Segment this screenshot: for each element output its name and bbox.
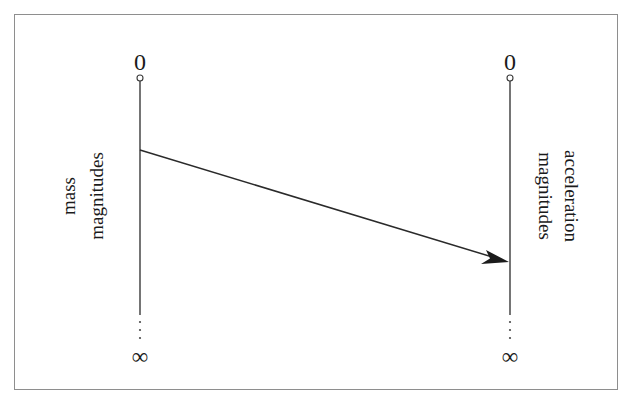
- left-axis-title-line1: mass: [59, 177, 78, 215]
- left-axis-title-line2: magnitudes: [87, 152, 106, 240]
- left-axis-dots: [139, 321, 141, 339]
- figure-canvas: 0 ∞ mass magnitudes 0 ∞ acceleration mag…: [0, 0, 633, 403]
- left-zero-marker-icon: [137, 75, 143, 81]
- mapping-arrow-head-icon: [481, 250, 509, 264]
- left-zero-label: 0: [134, 50, 146, 74]
- right-zero-marker-icon: [507, 75, 513, 81]
- right-axis-dots: [509, 321, 511, 339]
- right-axis-title-line2: magnitudes: [536, 152, 555, 240]
- left-infinity-label: ∞: [132, 345, 148, 368]
- right-infinity-label: ∞: [502, 345, 518, 368]
- mapping-arrow-shaft: [140, 150, 494, 258]
- right-zero-label: 0: [504, 50, 516, 74]
- right-axis-title-line1: acceleration: [562, 150, 581, 242]
